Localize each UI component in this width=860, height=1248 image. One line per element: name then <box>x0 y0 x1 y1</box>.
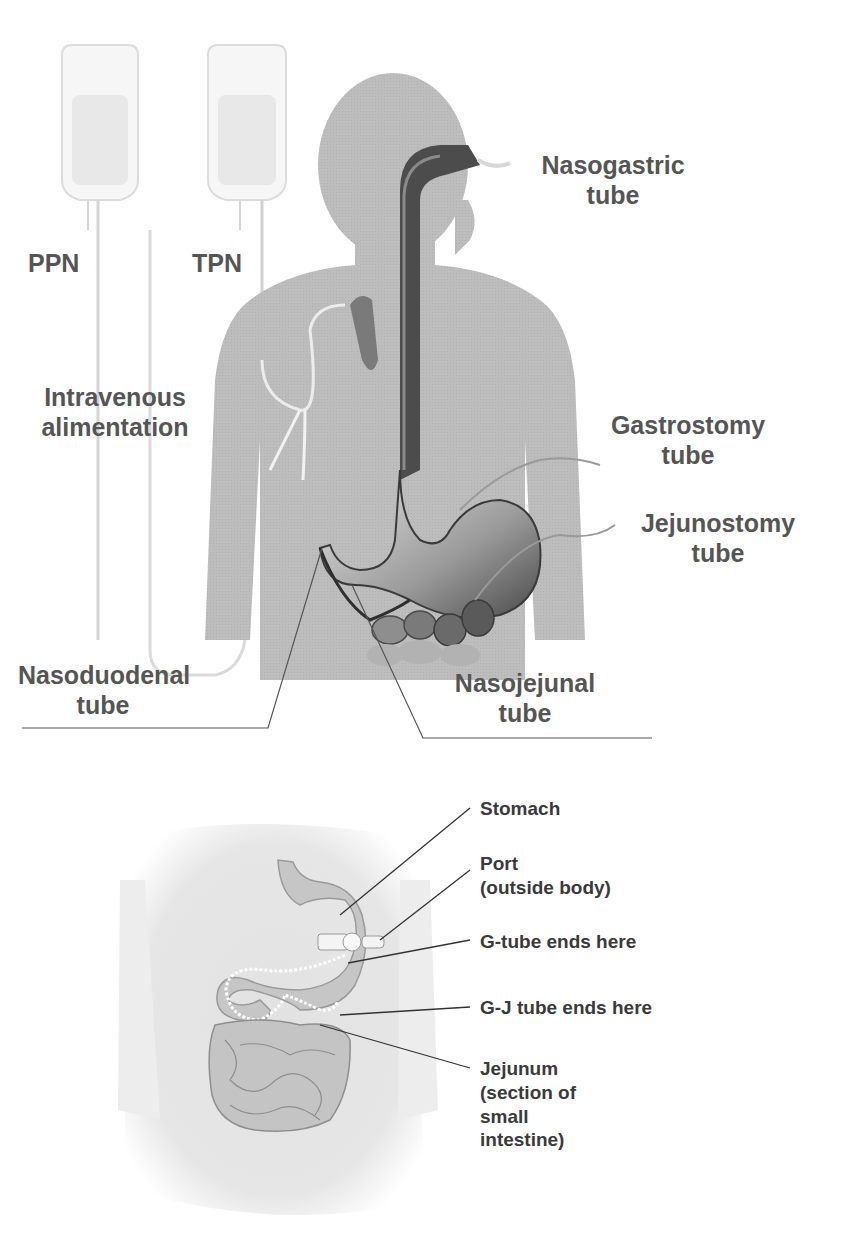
label-jejunostomy-tube: Jejunostomytube <box>628 508 808 568</box>
label-nasojejunal-tube: Nasojejunaltube <box>440 668 610 728</box>
iv-bag-ppn <box>62 45 138 640</box>
label-gj-tube-ends-here: G-J tube ends here <box>480 996 652 1020</box>
label-ppn: PPN <box>28 248 79 278</box>
label-nasoduodenal-tube: Nasoduodenaltube <box>18 660 188 720</box>
label-g-tube-ends-here: G-tube ends here <box>480 930 636 954</box>
label-intravenous-alimentation: Intravenousalimentation <box>15 382 215 442</box>
label-port: Port(outside body) <box>480 852 611 900</box>
small-intestine-illustration <box>209 1020 350 1131</box>
label-nasogastric-tube: Nasogastrictube <box>528 150 698 210</box>
label-stomach: Stomach <box>480 797 560 821</box>
port-illustration <box>318 933 384 951</box>
label-jejunum: Jejunum(section ofsmallintestine) <box>480 1057 576 1152</box>
diagram-canvas <box>0 0 860 1248</box>
label-gastrostomy-tube: Gastrostomytube <box>598 410 778 470</box>
body-silhouette-bottom <box>118 824 438 1215</box>
label-tpn: TPN <box>192 248 242 278</box>
